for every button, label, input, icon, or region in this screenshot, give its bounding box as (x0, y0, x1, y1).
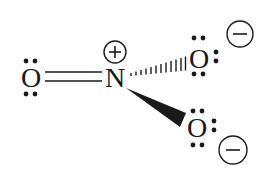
atom-n-symbol: N (105, 62, 125, 93)
atom-o2: O (189, 21, 253, 76)
atom-o3: O (187, 109, 247, 164)
double-bond (45, 72, 102, 81)
atom-n: N (104, 41, 126, 93)
lewis-structure-diagram: O N (0, 0, 265, 171)
atom-o1: O (21, 59, 41, 97)
negative-charge-icon (219, 136, 247, 164)
atom-o1-symbol: O (21, 62, 41, 93)
negative-charge-icon (227, 21, 253, 47)
atom-o2-symbol: O (189, 43, 209, 74)
hashed-wedge-bond (131, 57, 186, 77)
positive-charge-icon (104, 41, 126, 63)
solid-wedge-bond (126, 88, 186, 127)
atom-o3-symbol: O (187, 112, 207, 143)
